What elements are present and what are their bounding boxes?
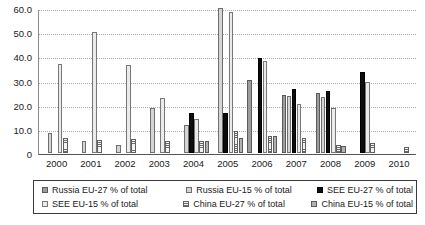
bar	[194, 119, 199, 153]
bar	[116, 145, 121, 153]
legend-label: Russia EU-15 % of total	[196, 185, 292, 195]
bar	[160, 98, 165, 153]
bar	[365, 82, 370, 152]
bar	[205, 141, 210, 152]
plot-frame	[38, 10, 416, 155]
legend-swatch-icon	[186, 187, 192, 193]
bar	[282, 95, 287, 153]
bar	[302, 138, 307, 153]
legend-label: China EU-27 % of total	[193, 199, 285, 209]
bar	[360, 72, 365, 153]
bar	[273, 136, 278, 153]
bar	[268, 136, 273, 152]
bar	[404, 147, 409, 153]
bar	[63, 138, 68, 153]
legend-label: Russia EU-27 % of total	[52, 185, 148, 195]
y-axis-tick: 20.0	[14, 102, 33, 112]
legend-swatch-icon	[183, 201, 189, 207]
x-axis-tick: 2003	[142, 158, 176, 169]
bar	[292, 89, 297, 152]
y-axis-tick: 30.0	[14, 78, 33, 88]
bar	[97, 140, 102, 153]
bar	[165, 141, 170, 152]
plot-area	[38, 10, 416, 155]
bar	[223, 113, 228, 153]
bar	[234, 131, 239, 152]
x-axis-tick: 2009	[348, 158, 382, 169]
bar	[150, 108, 155, 153]
bar	[229, 12, 234, 153]
x-axis-tick: 2005	[211, 158, 245, 169]
bar	[287, 96, 292, 152]
chart-legend: Russia EU-27 % of total Russia EU-15 % o…	[33, 180, 417, 214]
bar	[199, 141, 204, 152]
legend-swatch-icon	[42, 187, 48, 193]
x-axis-tick: 2001	[74, 158, 108, 169]
bar-group	[279, 10, 313, 153]
bar	[247, 80, 252, 153]
bar-group	[211, 10, 245, 153]
bar-group	[75, 10, 109, 153]
bar-group	[143, 10, 177, 153]
bar	[218, 8, 223, 153]
bar	[331, 108, 336, 153]
bar	[341, 146, 346, 153]
bar	[336, 145, 341, 152]
bar	[263, 61, 268, 152]
x-axis-tick: 2000	[40, 158, 74, 169]
x-axis-tick: 2002	[108, 158, 142, 169]
x-axis-tick: 2006	[245, 158, 279, 169]
bar	[48, 133, 53, 153]
y-axis: 60.050.040.030.020.010.00	[0, 10, 36, 155]
x-axis-labels: 2000200120022003200420052006200720082009…	[40, 158, 417, 169]
bar-group	[177, 10, 211, 153]
x-axis-tick: 2008	[313, 158, 347, 169]
bar	[184, 125, 189, 152]
bar-group	[245, 10, 279, 153]
y-axis-tick: 60.0	[14, 5, 33, 15]
x-axis-tick: 2010	[382, 158, 416, 169]
bar	[92, 32, 97, 152]
bar-chart: 60.050.040.030.020.010.00 20002001200220…	[0, 0, 425, 225]
legend-item[interactable]: SEE EU-27 % of total	[317, 185, 413, 195]
bar-group	[41, 10, 75, 153]
bar-group	[314, 10, 348, 153]
bar	[321, 97, 326, 153]
bar	[58, 64, 63, 152]
legend-swatch-icon	[317, 187, 323, 193]
bar	[82, 141, 87, 152]
legend-label: SEE EU-15 % of total	[52, 199, 138, 209]
bar-group	[348, 10, 382, 153]
bar	[126, 65, 131, 153]
bar	[297, 104, 302, 153]
y-axis-tick: 0	[27, 150, 32, 160]
x-axis-tick: 2007	[279, 158, 313, 169]
y-axis-tick: 10.0	[14, 126, 33, 136]
y-axis-tick: 40.0	[14, 54, 33, 64]
legend-item[interactable]: SEE EU-15 % of total	[37, 199, 183, 209]
x-axis-tick: 2004	[176, 158, 210, 169]
bar	[326, 91, 331, 153]
legend-item[interactable]: China EU-15 % of total	[311, 199, 413, 209]
legend-item[interactable]: China EU-27 % of total	[183, 199, 311, 209]
legend-row: Russia EU-27 % of total Russia EU-15 % o…	[37, 183, 413, 197]
bar	[239, 138, 244, 153]
bar	[189, 113, 194, 152]
bar	[131, 139, 136, 153]
legend-label: SEE EU-27 % of total	[327, 185, 413, 195]
bar-groups	[41, 10, 417, 153]
bar	[316, 93, 321, 152]
legend-row: SEE EU-15 % of total China EU-27 % of to…	[37, 197, 413, 211]
legend-item[interactable]: Russia EU-15 % of total	[186, 185, 317, 195]
bar	[258, 58, 263, 152]
bar	[370, 143, 375, 152]
bar-group	[382, 10, 416, 153]
bar-group	[109, 10, 143, 153]
y-axis-tick: 50.0	[14, 29, 33, 39]
legend-swatch-icon	[42, 201, 48, 207]
legend-item[interactable]: Russia EU-27 % of total	[37, 185, 186, 195]
legend-label: China EU-15 % of total	[321, 199, 413, 209]
legend-swatch-icon	[311, 201, 317, 207]
